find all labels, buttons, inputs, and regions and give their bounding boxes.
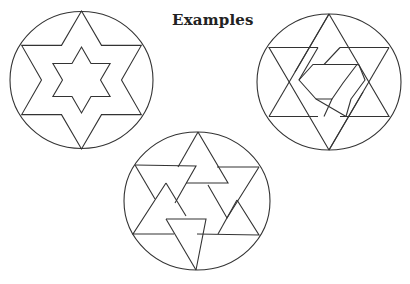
figure-interlaced-hexagram — [257, 14, 401, 150]
figure-nested-hexagram — [10, 11, 153, 149]
circle-outline — [257, 14, 401, 150]
inner-star — [53, 47, 110, 113]
examples-diagram — [0, 0, 410, 284]
outer-star — [22, 11, 142, 149]
circle-outline — [10, 12, 153, 149]
figure-pinwheel-triangles — [124, 132, 270, 270]
circle-outline — [124, 132, 270, 270]
